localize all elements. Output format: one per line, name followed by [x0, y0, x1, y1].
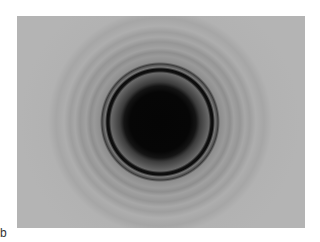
diffraction-image: [17, 16, 305, 228]
diffraction-rings: [17, 16, 305, 228]
panel-label: b: [0, 226, 7, 240]
